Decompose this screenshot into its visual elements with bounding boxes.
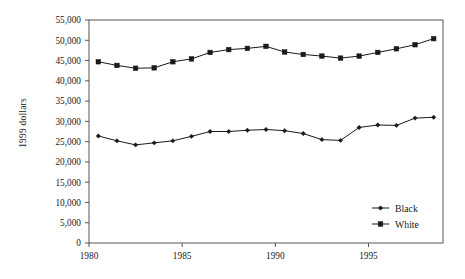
data-point-marker (431, 115, 435, 119)
data-point-marker (189, 57, 194, 62)
data-point-marker (282, 50, 287, 55)
chart-legend: BlackWhite (372, 203, 420, 230)
chart-figure: 1999 dollars 05,00010,00015,00020,00025,… (0, 0, 465, 279)
data-series-group (96, 36, 436, 147)
svg-text:15,000: 15,000 (55, 178, 81, 188)
data-point-marker (245, 128, 249, 132)
svg-text:0: 0 (76, 238, 81, 248)
svg-text:1980: 1980 (80, 251, 99, 261)
data-point-marker (152, 141, 156, 145)
legend-item-black: Black (372, 203, 418, 214)
series-white (96, 36, 436, 70)
svg-text:55,000: 55,000 (55, 15, 81, 25)
data-point-marker (378, 222, 383, 227)
legend-label: Black (395, 203, 418, 214)
data-point-marker (152, 66, 157, 71)
legend-item-white: White (372, 219, 420, 230)
data-point-marker (115, 139, 119, 143)
data-point-marker (431, 36, 436, 41)
data-point-marker (376, 123, 380, 127)
svg-text:40,000: 40,000 (55, 76, 81, 86)
data-point-marker (394, 46, 399, 51)
data-point-marker (189, 134, 193, 138)
data-point-marker (115, 63, 120, 68)
line-chart-plot: 05,00010,00015,00020,00025,00030,00035,0… (0, 0, 465, 279)
data-point-marker (96, 59, 101, 64)
data-point-marker (133, 143, 137, 147)
data-point-marker (133, 66, 138, 71)
data-point-marker (301, 131, 305, 135)
data-point-marker (245, 46, 250, 51)
x-axis-tick-labels: 1980198519901995 (80, 251, 378, 261)
data-point-marker (171, 139, 175, 143)
svg-text:45,000: 45,000 (55, 56, 81, 66)
data-point-marker (264, 44, 269, 49)
data-point-marker (338, 56, 343, 61)
svg-text:50,000: 50,000 (55, 36, 81, 46)
svg-text:30,000: 30,000 (55, 117, 81, 127)
series-black (96, 115, 436, 147)
data-point-marker (96, 134, 100, 138)
svg-text:1990: 1990 (266, 251, 285, 261)
data-point-marker (378, 206, 382, 210)
svg-text:10,000: 10,000 (55, 198, 81, 208)
svg-text:5,000: 5,000 (60, 218, 81, 228)
svg-text:25,000: 25,000 (55, 137, 81, 147)
y-axis-tick-labels: 05,00010,00015,00020,00025,00030,00035,0… (55, 15, 81, 248)
svg-text:1985: 1985 (173, 251, 192, 261)
data-point-marker (171, 59, 176, 64)
data-point-marker (413, 116, 417, 120)
data-point-marker (208, 129, 212, 133)
y-axis-title: 1999 dollars (18, 78, 28, 168)
data-point-marker (413, 42, 418, 47)
data-point-marker (394, 123, 398, 127)
data-point-marker (301, 52, 306, 57)
data-point-marker (357, 54, 362, 59)
data-point-marker (208, 50, 213, 55)
svg-text:35,000: 35,000 (55, 96, 81, 106)
data-point-marker (227, 129, 231, 133)
y-axis-ticks (85, 20, 89, 243)
data-point-marker (264, 127, 268, 131)
x-axis-ticks (89, 243, 368, 247)
data-point-marker (375, 50, 380, 55)
svg-text:20,000: 20,000 (55, 157, 81, 167)
data-point-marker (320, 54, 325, 59)
data-point-marker (226, 47, 231, 52)
svg-text:1995: 1995 (359, 251, 378, 261)
legend-label: White (395, 219, 420, 230)
data-point-marker (320, 137, 324, 141)
data-point-marker (282, 128, 286, 132)
